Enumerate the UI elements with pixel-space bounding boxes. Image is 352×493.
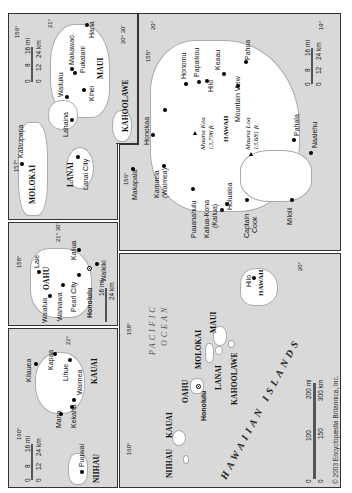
town-kapaa: Kapaa xyxy=(47,350,55,370)
copyright-credit: © 2003 Encyclopædia Britannica, Inc. xyxy=(332,376,339,485)
degree-19: 19° xyxy=(318,21,324,30)
town-waikiki: Waikiki xyxy=(100,260,108,282)
town-dot-lihue xyxy=(68,358,72,362)
town-dot-waimea-kauai xyxy=(72,398,76,402)
town-keaau: Keaau xyxy=(214,50,222,70)
town-dot-honomu xyxy=(184,82,188,86)
overview-island-hawaii: HAWAII xyxy=(257,270,265,296)
town-dot-lahaina xyxy=(70,118,74,122)
town-waimea-hawaii: (Waimea) xyxy=(161,168,169,198)
town-honolulu: Honolulu xyxy=(86,288,94,318)
overview-kahoolawe xyxy=(228,340,235,348)
town-cook: Cook xyxy=(251,217,259,233)
peak-mauna-loa-icon xyxy=(249,152,253,156)
overview-island-oahu: OAHU xyxy=(181,380,190,403)
degree-156-hawaii: 156° xyxy=(123,173,129,185)
town-dot-naalehu xyxy=(309,151,313,155)
town-hana: Hana xyxy=(88,21,96,38)
overview-degree-20: 20° xyxy=(297,262,303,271)
overview-island-kahoolawe: KAHOOLAWE xyxy=(230,352,239,405)
hawaii-notch-line-h xyxy=(119,143,139,145)
town-captain: Captain xyxy=(243,214,251,238)
peak-mauna-kea-elev: 13,796 ft. xyxy=(207,123,215,150)
town-dot-lanai-city xyxy=(76,155,80,159)
town-hilo: Hilo xyxy=(207,80,215,92)
overview-lanai xyxy=(215,346,223,355)
overview-town-hilo: Hilo xyxy=(245,275,253,287)
town-wahiawa: Wahiawa xyxy=(56,292,64,321)
town-kalaupapa: Kalaupapa xyxy=(17,125,25,158)
town-kilauea: Kilauea xyxy=(25,359,33,382)
town-kihei: Kihei xyxy=(88,85,96,101)
town-lihue: Lihue xyxy=(62,364,70,381)
town-dot-pahala xyxy=(292,138,296,142)
town-dot-pearl-city xyxy=(77,273,81,277)
town-dot-waikiki xyxy=(95,262,99,266)
town-kamuela: Kamuela xyxy=(153,170,161,198)
town-pahala: Pahala xyxy=(293,114,301,136)
town-dot-kilauea xyxy=(34,362,38,366)
degree-20-hawaii: 20° xyxy=(150,21,156,30)
degree-21-30: 21° 30' xyxy=(55,223,61,242)
town-puuanahulu: Puuanahulu xyxy=(190,201,198,238)
degree-22: 22° xyxy=(65,336,71,345)
peak-mauna-kea: Mauna Kea xyxy=(199,117,207,150)
town-laie: Laie xyxy=(33,255,41,268)
degree-157: 157° xyxy=(13,160,19,172)
town-dot-wailuku xyxy=(65,95,69,99)
overview-island-niihau: NIIHAU xyxy=(165,449,174,478)
town-dot-keaau xyxy=(222,72,226,76)
degree-155: 155° xyxy=(145,50,151,62)
town-pearl-city: Pearl City xyxy=(70,282,78,312)
island-molokai: MOLOKAI xyxy=(28,165,37,204)
town-puuwai: Puuwai xyxy=(78,444,86,467)
town-pahoa: Pahoa xyxy=(244,40,252,60)
town-dot-puuwai xyxy=(80,470,84,474)
town-dot-wahiawa xyxy=(61,283,65,287)
town-naalehu: Naalehu xyxy=(311,122,319,148)
town-dot-milolii xyxy=(290,198,294,202)
town-dot-puuanahulu xyxy=(191,187,195,191)
overview-molokai xyxy=(205,343,214,363)
town-dot-pahoa xyxy=(244,60,248,64)
island-lanai: LANAI xyxy=(66,162,75,187)
town-dot-laie xyxy=(37,270,41,274)
overview-kauai xyxy=(172,430,186,446)
peak-mauna-loa-elev: 13,681 ft. xyxy=(252,123,260,150)
degree-158: 158° xyxy=(16,256,22,268)
town-papaikou: Papaikou xyxy=(193,48,201,77)
capital-honolulu-icon xyxy=(87,266,92,271)
town-dot-papaikou xyxy=(197,80,201,84)
overview-niihau xyxy=(183,455,189,464)
degree-21: 21° xyxy=(47,19,53,28)
island-oahu: OAHU xyxy=(42,267,51,290)
degree-160: 160° xyxy=(16,428,22,440)
overview-island-kauai: KAUAI xyxy=(165,412,174,438)
town-makawao: Makawao xyxy=(68,35,76,65)
town-dot-captain-cook xyxy=(245,198,249,202)
town-dot-kailua-kona xyxy=(220,208,224,212)
overview-town-honolulu: Honolulu xyxy=(200,391,208,421)
ocean-label-ocean: OCEAN xyxy=(160,305,169,346)
overview-degree-160: 160° xyxy=(126,443,132,455)
town-milolii: Milolii xyxy=(286,208,294,226)
town-makapala: Makapala xyxy=(131,170,139,200)
peak-mauna-kea-icon xyxy=(193,131,197,135)
town-dot-pukalani xyxy=(73,71,77,75)
town-kailua: (Kailua) xyxy=(211,204,219,228)
overview-island-lanai: LANAI xyxy=(214,365,223,390)
town-dot-kalaupapa xyxy=(20,162,24,166)
town-honomu: Honomu xyxy=(180,53,188,79)
town-honokaa: Honokaa xyxy=(143,117,151,145)
town-kekaha: Kekaha xyxy=(70,404,78,428)
town-dot-kihei xyxy=(82,88,86,92)
peak-mauna-loa: Mauna Loa xyxy=(244,118,252,150)
town-wailuku: Wailuku xyxy=(57,72,65,97)
town-dot-honokaa xyxy=(151,133,155,137)
town-mana: Mana xyxy=(55,410,63,428)
island-niihau: NIIHAU xyxy=(92,454,101,483)
overview-island-maui: MAUI xyxy=(209,311,218,333)
town-waimea-kauai: Waimea xyxy=(76,370,84,395)
overview-capital-honolulu-icon xyxy=(196,384,201,389)
ocean-label-pacific: PACIFIC xyxy=(148,304,157,355)
